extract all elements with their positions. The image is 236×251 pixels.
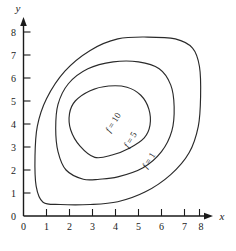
contour-level-label: f = 10 [103, 110, 123, 134]
y-tick-label: 4 [11, 119, 16, 130]
x-tick-label: 6 [159, 221, 164, 232]
y-tick-label: 6 [11, 73, 16, 84]
x-tick-label: 0 [21, 221, 26, 232]
y-tick-label: 0 [11, 211, 16, 222]
x-tick-label: 3 [90, 221, 95, 232]
contour-labels: f = 10f = 5f = 1 [103, 110, 157, 170]
y-axis-ticks [24, 32, 31, 193]
x-tick-label: 4 [113, 221, 118, 232]
y-tick-label: 1 [11, 188, 16, 199]
plot-canvas: 0 1 2 3 4 5 6 7 8 0 1 2 3 4 5 6 7 8 x y … [0, 0, 236, 251]
x-tick-label: 2 [67, 221, 72, 232]
contour-level-label: f = 1 [140, 151, 157, 170]
x-tick-labels: 0 1 2 3 4 5 6 7 8 [21, 221, 204, 232]
y-tick-label: 8 [11, 27, 16, 38]
y-tick-labels: 0 1 2 3 4 5 6 7 8 [11, 27, 16, 222]
x-tick-label: 7 [182, 221, 187, 232]
y-tick-label: 7 [11, 50, 16, 61]
y-tick-label: 3 [11, 142, 16, 153]
y-axis-label: y [15, 2, 21, 14]
y-tick-label: 2 [11, 165, 16, 176]
x-tick-label: 1 [44, 221, 49, 232]
x-tick-label: 5 [136, 221, 141, 232]
x-axis-arrow-icon [204, 213, 213, 220]
y-tick-label: 5 [11, 96, 16, 107]
x-tick-label: 8 [199, 221, 204, 232]
contour-level-label: f = 5 [122, 130, 140, 150]
x-axis-ticks [47, 209, 200, 216]
y-axis-arrow-icon [20, 17, 27, 26]
x-axis-label: x [219, 210, 225, 222]
contour-plot-figure: 0 1 2 3 4 5 6 7 8 0 1 2 3 4 5 6 7 8 x y … [0, 0, 236, 251]
